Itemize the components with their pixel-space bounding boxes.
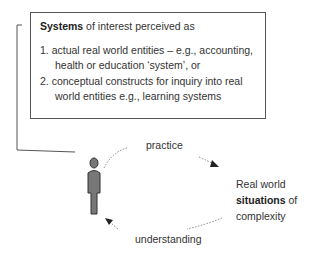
person-icon xyxy=(88,158,100,214)
arrow-left-icon xyxy=(105,218,113,225)
situations-label: Real world situations of complexity xyxy=(236,176,297,224)
understanding-label: understanding xyxy=(135,233,202,246)
arrow-right-icon xyxy=(210,160,219,167)
item-2-line1: 2. conceptual constructs for inquiry int… xyxy=(40,75,243,88)
item-1-line2: health or education ‘system’, or xyxy=(55,59,200,72)
item-2-line2: world entities e.g., learning systems xyxy=(55,90,221,103)
item-1-line1: 1. actual real world entities – e.g., ac… xyxy=(40,44,253,57)
box-heading: Systems of interest perceived as xyxy=(40,20,195,33)
practice-label: practice xyxy=(146,139,183,152)
